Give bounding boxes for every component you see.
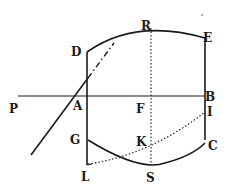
label-L: L	[81, 170, 90, 184]
speck-mark	[201, 14, 202, 15]
label-F: F	[136, 102, 145, 116]
label-E: E	[203, 31, 212, 45]
label-B: B	[205, 90, 215, 104]
label-D: D	[71, 45, 81, 59]
geometric-diagram: P A D R E B F I G K C L S	[0, 0, 227, 187]
label-K: K	[136, 135, 147, 149]
curve-DRE	[87, 31, 205, 52]
dotted-curve-LKI	[88, 112, 205, 164]
label-C: C	[208, 139, 218, 153]
label-A: A	[72, 99, 83, 113]
label-I: I	[207, 105, 213, 119]
label-S: S	[146, 171, 155, 185]
label-P: P	[9, 102, 18, 116]
label-R: R	[141, 19, 152, 33]
label-G: G	[70, 133, 80, 147]
